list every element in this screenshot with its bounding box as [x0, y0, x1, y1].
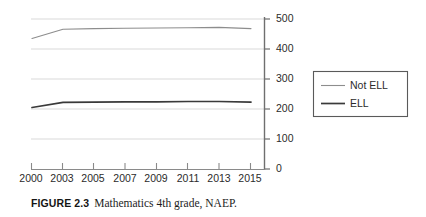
x-tick-label-2007: 2007 — [113, 172, 137, 184]
x-axis — [31, 163, 265, 170]
gridlines — [31, 19, 264, 139]
caption-title-text: Mathematics 4th grade, NAEP. — [94, 197, 237, 209]
x-tick-label-2015: 2015 — [238, 172, 262, 184]
legend-label-not-ell: Not ELL — [350, 79, 388, 91]
x-tick-label-2005: 2005 — [81, 172, 105, 184]
legend-label-ell: ELL — [350, 97, 369, 109]
figure-container: 0 100 200 300 400 500 2000 2003 2005 — [0, 0, 426, 217]
y-tick-label-0: 0 — [276, 162, 282, 174]
y-tick-label-500: 500 — [276, 12, 294, 24]
y-tick-label-100: 100 — [276, 132, 294, 144]
y-axis — [265, 17, 271, 170]
y-tick-label-200: 200 — [276, 102, 294, 114]
y-tick-label-300: 300 — [276, 72, 294, 84]
x-tick-label-2009: 2009 — [144, 172, 168, 184]
x-tick-label-2003: 2003 — [50, 172, 74, 184]
x-tick-label-2011: 2011 — [177, 172, 200, 184]
x-tick-label-2013: 2013 — [207, 172, 231, 184]
caption-figure-number: FIGURE 2.3 — [31, 197, 89, 209]
series-line-ell — [32, 102, 251, 108]
series-line-not-ell — [32, 27, 251, 38]
line-chart: 0 100 200 300 400 500 2000 2003 2005 — [0, 0, 426, 190]
y-tick-label-400: 400 — [276, 42, 294, 54]
x-tick-label-2000: 2000 — [19, 172, 43, 184]
chart-canvas: 0 100 200 300 400 500 2000 2003 2005 — [0, 0, 426, 190]
chart-legend: Not ELL ELL — [314, 72, 408, 117]
figure-caption: FIGURE 2.3Mathematics 4th grade, NAEP. — [31, 193, 411, 211]
